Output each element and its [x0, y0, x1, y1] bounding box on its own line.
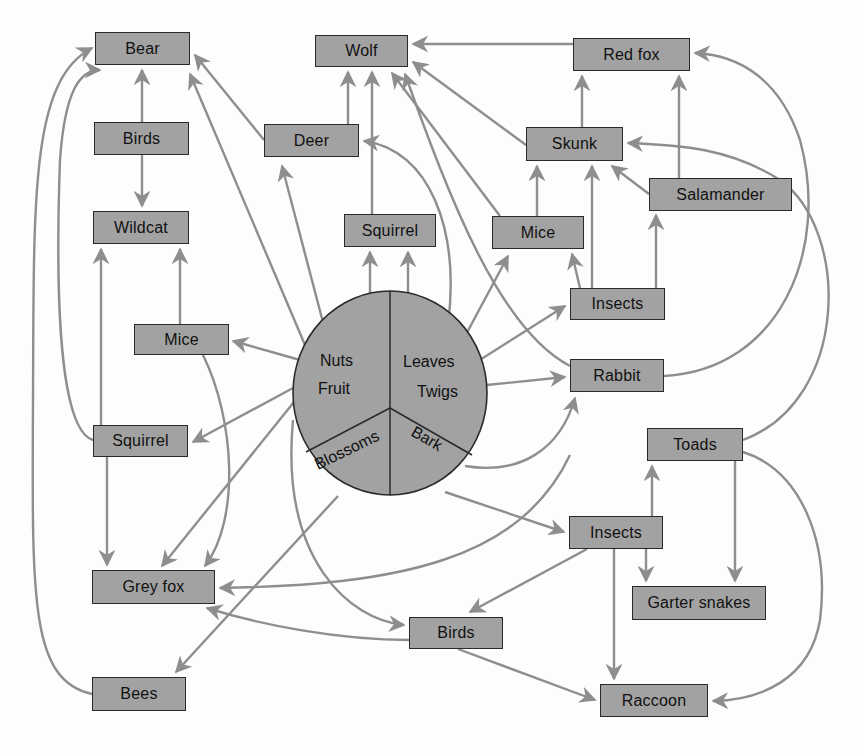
node-bear: Bear [95, 32, 190, 65]
node-mice-left: Mice [134, 324, 229, 355]
node-skunk: Skunk [526, 127, 623, 161]
node-red-fox: Red fox [573, 38, 690, 71]
node-bees: Bees [92, 677, 186, 711]
node-grey-fox: Grey fox [92, 570, 215, 604]
node-insects-top: Insects [570, 288, 665, 320]
pie-label-nuts: Nuts [320, 352, 353, 369]
node-birds-bottom: Birds [409, 617, 503, 649]
node-garter-snakes: Garter snakes [632, 586, 766, 620]
pie-label-fruit: Fruit [318, 380, 351, 397]
pie-label-leaves: Leaves [403, 353, 455, 370]
node-toads: Toads [647, 428, 743, 461]
node-raccoon: Raccoon [600, 684, 708, 717]
node-squirrel-left: Squirrel [93, 425, 188, 457]
node-insects-bottom: Insects [569, 516, 663, 549]
node-wildcat: Wildcat [93, 211, 189, 244]
node-birds-top: Birds [94, 122, 189, 155]
node-mice-mid: Mice [492, 216, 584, 249]
node-deer: Deer [264, 124, 359, 157]
pie-label-twigs: Twigs [417, 383, 458, 400]
node-squirrel-mid: Squirrel [344, 214, 436, 247]
node-salamander: Salamander [649, 178, 792, 211]
node-wolf: Wolf [315, 35, 408, 67]
node-rabbit: Rabbit [570, 359, 664, 392]
plant-food-pie: Nuts Fruit Leaves Twigs Blossoms Bark [293, 291, 487, 495]
